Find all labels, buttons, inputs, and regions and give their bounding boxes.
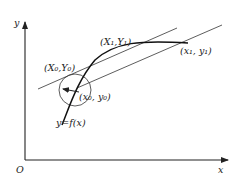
point-label-x0y0: (x₀, y₀) — [79, 91, 111, 102]
origin-label: O — [16, 164, 24, 175]
coordinate-diagram: y x O (X₁,Y₁) (X₀,Y₀) (x₀, y₀) (x₁, y₁) … — [0, 0, 237, 181]
x-axis-label: x — [218, 164, 224, 175]
point-label-x1y1: (x₁, y₁) — [180, 45, 212, 56]
y-axis-label: y — [13, 17, 20, 28]
curve-label: y=f(x) — [55, 117, 86, 128]
function-curve — [62, 42, 188, 125]
point-label-X0Y0: (X₀,Y₀) — [44, 62, 75, 73]
point-label-X1Y1: (X₁,Y₁) — [100, 36, 131, 47]
